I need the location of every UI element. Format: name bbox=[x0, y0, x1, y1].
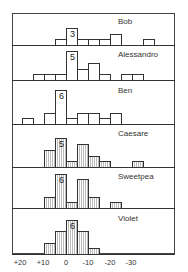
panel-baseline bbox=[12, 254, 175, 255]
histogram-bar bbox=[110, 113, 122, 124]
x-tick-label: -30 bbox=[126, 258, 137, 267]
panel-baseline bbox=[12, 80, 175, 81]
histogram-bar bbox=[132, 161, 144, 167]
histogram-bar bbox=[110, 202, 122, 208]
panel-label: Alessandro bbox=[118, 50, 158, 59]
panel-label: Violet bbox=[118, 214, 138, 223]
histogram-bar bbox=[99, 74, 111, 80]
panel-baseline bbox=[12, 124, 175, 125]
panel-label: Caesare bbox=[118, 129, 148, 138]
histogram-chart: Bob3Alessandro5Ben6Caesare5Sweetpea6Viol… bbox=[0, 0, 188, 272]
panel-baseline bbox=[12, 208, 175, 209]
x-tick-label: -10 bbox=[83, 258, 94, 267]
panel-baseline bbox=[12, 45, 175, 46]
x-tick-label: 0 bbox=[64, 258, 68, 267]
peak-count-label: 6 bbox=[56, 91, 67, 101]
panel-label: Ben bbox=[118, 86, 132, 95]
panel-label: Bob bbox=[118, 17, 132, 26]
peak-count-label: 5 bbox=[67, 52, 78, 62]
x-tick-label: -20 bbox=[105, 258, 116, 267]
peak-count-label: 6 bbox=[67, 221, 78, 231]
panel-label: Sweetpea bbox=[118, 172, 154, 181]
panel-baseline bbox=[12, 167, 175, 168]
peak-count-label: 6 bbox=[56, 175, 67, 185]
histogram-bar bbox=[132, 74, 144, 80]
peak-count-label: 3 bbox=[67, 29, 78, 39]
histogram-bar bbox=[88, 248, 100, 254]
peak-count-label: 5 bbox=[56, 139, 67, 149]
x-tick-label: +20 bbox=[14, 258, 27, 267]
histogram-bar bbox=[88, 197, 100, 208]
histogram-bar bbox=[110, 34, 122, 45]
histogram-bar bbox=[143, 39, 155, 45]
x-tick-label: +10 bbox=[37, 258, 50, 267]
histogram-bar bbox=[22, 118, 34, 124]
histogram-bar bbox=[99, 161, 111, 167]
